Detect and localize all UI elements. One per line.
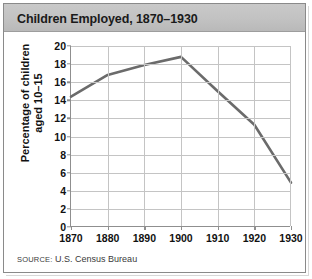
y-tick-label: 6 [60,167,66,179]
source-note: SOURCE: U.S. Census Bureau [17,254,137,264]
y-tick-mark [67,136,71,137]
y-axis-title-line1: Percentage of children [19,28,32,178]
y-tick-mark [67,208,71,209]
y-tick-mark [67,190,71,191]
y-tick-label: 20 [54,40,66,52]
x-tick-label: 1870 [59,232,82,244]
y-axis-title-line2: aged 10–15 [32,28,45,178]
y-tick-mark [67,81,71,82]
x-tick-mark [291,226,292,230]
y-tick-mark [67,63,71,64]
x-gridline [254,46,255,226]
plot-container: Percentage of children aged 10–15 024681… [4,33,305,272]
y-axis-title: Percentage of children aged 10–15 [19,28,45,178]
y-tick-label: 14 [54,94,66,106]
x-tick-label: 1910 [206,232,229,244]
chart-plot-area: 0246810121416182018701880189019001910192… [70,46,290,227]
x-gridline [218,46,219,226]
source-text: U.S. Census Bureau [55,254,137,264]
page-title: Children Employed, 1870–1930 [17,12,198,26]
y-tick-mark [67,172,71,173]
x-tick-label: 1900 [169,232,192,244]
x-tick-label: 1920 [243,232,266,244]
y-tick-mark [67,154,71,155]
x-gridline [181,46,182,226]
y-tick-mark [67,45,71,46]
y-tick-label: 12 [54,112,66,124]
source-label: SOURCE: [17,255,53,264]
x-tick-label: 1890 [133,232,156,244]
chart-figure: Children Employed, 1870–1930 Percentage … [0,0,312,279]
x-tick-label: 1880 [96,232,119,244]
x-gridline [290,46,291,226]
y-tick-mark [67,118,71,119]
y-tick-label: 18 [54,58,66,70]
x-gridline [108,46,109,226]
x-tick-mark [71,226,72,230]
y-tick-label: 10 [54,131,66,143]
x-tick-mark [254,226,255,230]
y-tick-label: 16 [54,76,66,88]
y-tick-mark [67,100,71,101]
x-tick-mark [108,226,109,230]
y-tick-label: 2 [60,203,66,215]
y-tick-label: 8 [60,149,66,161]
x-tick-mark [144,226,145,230]
x-tick-label: 1930 [279,232,302,244]
x-gridline [144,46,145,226]
x-tick-mark [181,226,182,230]
y-tick-label: 4 [60,185,66,197]
chart-title-bar: Children Employed, 1870–1930 [4,4,305,32]
x-tick-mark [218,226,219,230]
